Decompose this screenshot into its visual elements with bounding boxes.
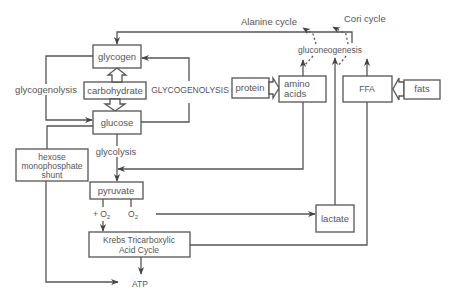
glycogenolysis-left-label: glycogenolysis bbox=[15, 84, 77, 95]
protein-label: protein bbox=[235, 82, 264, 93]
atp-label: ATP bbox=[132, 279, 148, 289]
alanine-cycle-label: Alanine cycle bbox=[241, 16, 297, 27]
lactate-node: lactate bbox=[316, 205, 354, 232]
amino-acids-to-pyruvate-arrow bbox=[118, 102, 303, 169]
carbohydrate-node: carbohydrate bbox=[84, 82, 146, 99]
ffa-label: FFA bbox=[359, 84, 375, 94]
protein-node: protein bbox=[232, 78, 269, 98]
carbohydrate-label: carbohydrate bbox=[87, 85, 142, 96]
pyruvate-label: pyruvate bbox=[98, 185, 134, 196]
gluconeogenesis-to-glycogen-arrow bbox=[117, 32, 352, 44]
glycolysis-label: glycolysis bbox=[96, 146, 137, 157]
o2-label: O2 bbox=[128, 209, 139, 220]
fats-node: fats bbox=[404, 80, 440, 99]
cori-cycle-label: Cori cycle bbox=[344, 13, 386, 24]
glucose-label: glucose bbox=[101, 117, 134, 128]
pyruvate-node: pyruvate bbox=[90, 182, 143, 199]
hexose-label-line3: shunt bbox=[42, 170, 63, 180]
krebs-label-line1: Krebs Tricarboxylic bbox=[103, 235, 176, 245]
metabolism-diagram: glycogen carbohydrate glucose glycogenol… bbox=[0, 0, 453, 300]
carbohydrate-to-glycogen-block-arrow bbox=[108, 68, 126, 82]
glucose-to-hexose-line bbox=[47, 126, 93, 149]
amino-acids-node: amino acids bbox=[279, 76, 326, 102]
fats-to-ffa-block-arrow bbox=[393, 78, 404, 100]
krebs-label-line2: Acid Cycle bbox=[119, 245, 159, 255]
gluconeogenesis-label: gluconeogenesis bbox=[298, 45, 362, 55]
lactate-label: lactate bbox=[321, 213, 349, 224]
fats-label: fats bbox=[414, 83, 430, 94]
hexose-monophosphate-shunt-node: hexose monophosphate shunt bbox=[16, 149, 88, 181]
amino-label-line2: acids bbox=[284, 88, 306, 99]
glycogenolysis-right-label: GLYCOGENOLYSIS bbox=[151, 85, 229, 95]
protein-to-amino-acids-block-arrow bbox=[269, 78, 279, 98]
krebs-cycle-node: Krebs Tricarboxylic Acid Cycle bbox=[89, 232, 190, 257]
carbohydrate-to-glucose-block-arrow bbox=[105, 99, 125, 111]
glucose-node: glucose bbox=[93, 111, 141, 134]
ffa-node: FFA bbox=[343, 76, 392, 102]
plus-o2-label: + O2 bbox=[93, 209, 111, 220]
glycogen-node: glycogen bbox=[93, 45, 141, 68]
glycogen-label: glycogen bbox=[98, 51, 136, 62]
